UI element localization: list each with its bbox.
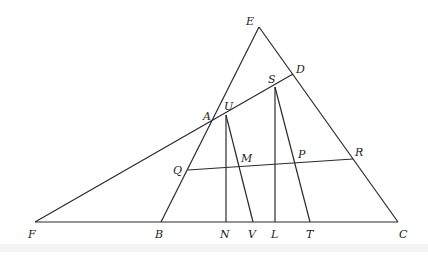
segment-UV xyxy=(226,115,253,222)
label-N: N xyxy=(219,228,230,241)
segment-FD xyxy=(35,74,293,222)
label-S: S xyxy=(268,73,276,86)
segment-EB xyxy=(161,27,259,222)
geometry-diagram: E D S U A Q M P R F B N V L T C xyxy=(0,0,428,257)
label-E: E xyxy=(245,15,254,28)
diagram-segments xyxy=(35,27,398,222)
label-D: D xyxy=(295,63,305,76)
segment-EC xyxy=(259,27,398,222)
label-V: V xyxy=(248,228,257,241)
label-B: B xyxy=(154,228,163,241)
label-C: C xyxy=(399,228,408,241)
label-T: T xyxy=(306,228,315,241)
label-L: L xyxy=(270,228,278,241)
label-Q: Q xyxy=(173,164,182,177)
label-U: U xyxy=(224,100,234,113)
label-M: M xyxy=(240,152,253,165)
label-P: P xyxy=(297,148,306,161)
segment-QR xyxy=(188,159,353,170)
label-R: R xyxy=(354,146,363,159)
label-F: F xyxy=(27,228,36,241)
label-A: A xyxy=(202,110,211,123)
diagram-labels: E D S U A Q M P R F B N V L T C xyxy=(27,15,408,241)
